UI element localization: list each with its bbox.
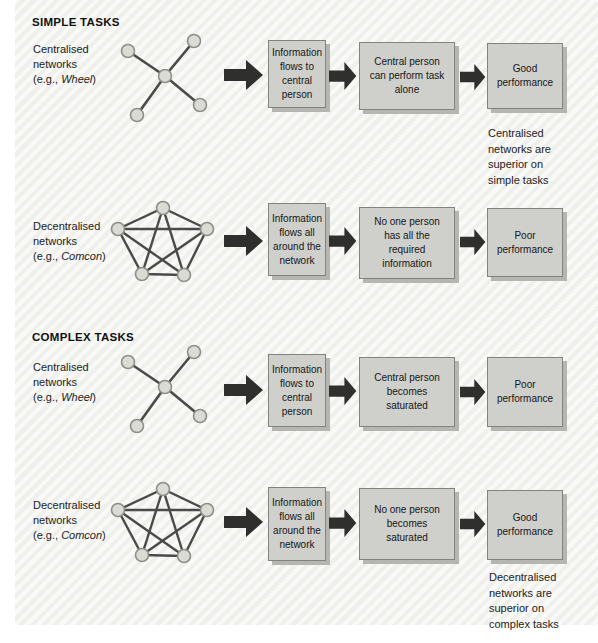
comcon-network-diagram	[110, 196, 215, 288]
label-line-1: Centralised	[33, 43, 89, 55]
right-arrow-icon	[329, 61, 357, 91]
wheel-network-diagram	[112, 30, 217, 125]
flow-box-performance: Good performance	[487, 43, 563, 109]
right-arrow-icon	[329, 508, 357, 538]
label-example-name: Comcon	[61, 529, 102, 541]
label-example: (e.g., Comcon)	[33, 529, 106, 541]
flow-box-performance: Poor performance	[487, 357, 563, 427]
right-arrow-icon	[224, 225, 264, 257]
caption-simple-tasks: Centralised networks are superior on sim…	[488, 126, 568, 188]
label-example: (e.g., Wheel)	[33, 73, 96, 85]
diagram-panel: SIMPLE TASKS Centralised networks (e.g.,…	[15, 0, 598, 625]
label-line-1: Decentralised	[33, 220, 100, 232]
label-line-2: networks	[33, 235, 77, 247]
label-line-1: Centralised	[33, 361, 89, 373]
comcon-network-diagram	[110, 477, 215, 569]
label-example-name: Wheel	[61, 391, 92, 403]
right-arrow-icon	[460, 63, 486, 91]
flow-box-consequence: Central person becomes saturated	[359, 357, 455, 427]
right-arrow-icon	[329, 226, 357, 256]
label-example: (e.g., Comcon)	[33, 250, 106, 262]
right-arrow-icon	[224, 506, 264, 538]
right-arrow-icon	[460, 510, 486, 538]
right-arrow-icon	[460, 378, 486, 406]
flow-box-performance: Poor performance	[487, 208, 563, 277]
flow-box-information: Information flows to central person	[268, 40, 326, 108]
label-example-name: Comcon	[61, 250, 102, 262]
flow-box-consequence: No one person has all the required infor…	[359, 207, 455, 279]
wheel-network-diagram	[112, 341, 217, 436]
label-example-name: Wheel	[61, 73, 92, 85]
label-line-1: Decentralised	[33, 499, 100, 511]
label-line-2: networks	[33, 514, 77, 526]
right-arrow-icon	[460, 228, 486, 256]
label-line-2: networks	[33, 376, 77, 388]
label-example: (e.g., Wheel)	[33, 391, 96, 403]
flow-box-consequence: No one person becomes saturated	[359, 488, 455, 560]
flow-box-information: Information flows all around the network	[268, 203, 326, 276]
figure-page: SIMPLE TASKS Centralised networks (e.g.,…	[0, 0, 598, 643]
label-line-2: networks	[33, 58, 77, 70]
caption-complex-tasks: Decentralised networks are superior on c…	[489, 570, 569, 632]
flow-box-performance: Good performance	[487, 490, 563, 560]
flow-box-consequence: Central person can perform task alone	[359, 42, 455, 110]
section-header-simple: SIMPLE TASKS	[32, 16, 120, 28]
flow-box-information: Information flows all around the network	[268, 487, 326, 561]
right-arrow-icon	[329, 376, 357, 406]
right-arrow-icon	[224, 374, 264, 406]
flow-box-information: Information flows to central person	[268, 354, 326, 427]
right-arrow-icon	[224, 59, 264, 91]
